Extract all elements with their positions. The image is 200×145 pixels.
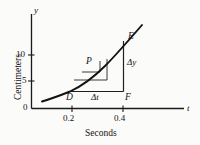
- y-axis-title: Centimeters: [14, 54, 24, 100]
- origin-tick-label: 0: [23, 103, 28, 112]
- x-tick-label-0-2: 0.2: [63, 114, 74, 123]
- point-label-P: P: [86, 57, 92, 67]
- point-label-D: D: [66, 93, 73, 103]
- delta-y-label: Δy: [127, 58, 136, 67]
- point-label-E: E: [128, 32, 134, 42]
- x-axis-variable-label: t: [187, 104, 190, 113]
- delta-t-label: Δt: [91, 93, 99, 102]
- figure-container: y t 0 5 10 0.2 0.4 Centimeters Seconds D…: [0, 0, 200, 145]
- x-tick-label-0-4: 0.4: [114, 114, 125, 123]
- point-label-F: F: [125, 93, 131, 103]
- x-axis-title: Seconds: [85, 129, 117, 139]
- plot-canvas: [0, 0, 200, 145]
- y-axis-variable-label: y: [34, 6, 38, 15]
